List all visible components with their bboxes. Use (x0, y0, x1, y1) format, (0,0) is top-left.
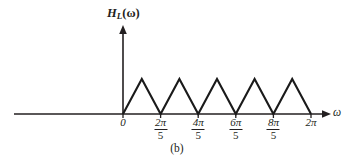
tick-label-4pi-over-5: 4π 5 (192, 117, 205, 142)
tick-label-denominator: 5 (192, 130, 205, 142)
tick-label-6pi-over-5: 6π 5 (229, 117, 242, 142)
waveform-triangular-lobes (123, 79, 311, 114)
tick-label-numerator: 8π (267, 117, 280, 130)
tick-label-numerator: 2π (154, 117, 167, 130)
figure-container: HL(ω) ω 0 2π 5 4π 5 6π 5 8π 5 2π (b) (0, 0, 355, 166)
tick-label-2pi-over-5: 2π 5 (154, 117, 167, 142)
tick-label-denominator: 5 (267, 130, 280, 142)
y-axis-arrowhead (119, 25, 127, 34)
tick-label-denominator: 5 (154, 130, 167, 142)
y-axis-label-argument: (ω) (122, 6, 139, 20)
figure-caption: (b) (170, 142, 183, 154)
y-axis-label: HL(ω) (107, 7, 140, 21)
tick-label-denominator: 5 (229, 130, 242, 142)
x-axis-label: ω (333, 107, 341, 119)
tick-label-numerator: 6π (229, 117, 242, 130)
x-axis-arrowhead (322, 110, 331, 118)
y-axis-label-main: H (107, 6, 117, 20)
tick-label-2pi: 2π (305, 117, 316, 128)
tick-label-numerator: 4π (192, 117, 205, 130)
tick-label-0: 0 (120, 117, 126, 128)
tick-label-8pi-over-5: 8π 5 (267, 117, 280, 142)
